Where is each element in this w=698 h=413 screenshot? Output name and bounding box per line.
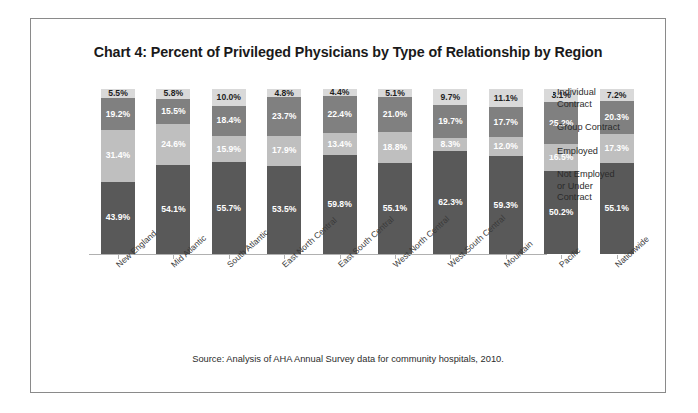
- bar-segment-label: 24.6%: [161, 140, 185, 149]
- bar-segment: 5.8%: [156, 89, 190, 99]
- bar-segment-label: 23.7%: [272, 112, 296, 121]
- bar-segment: 8.3%: [433, 138, 467, 152]
- x-axis-line: [89, 254, 547, 255]
- legend-item-label: Individual Contract: [557, 87, 621, 110]
- bar-segment: 12.0%: [489, 137, 523, 157]
- stacked-bar: 5.5%19.2%31.4%43.9%: [101, 89, 135, 254]
- bar-segment-label: 62.3%: [438, 198, 462, 207]
- bar-segment-label: 18.8%: [383, 143, 407, 152]
- bar-segment: 19.2%: [101, 98, 135, 130]
- legend-swatch-icon: [547, 125, 553, 131]
- bar-segment-label: 17.9%: [272, 146, 296, 155]
- stacked-bar: 10.0%18.4%15.9%55.7%: [212, 89, 246, 254]
- legend-swatch-icon: [547, 90, 553, 96]
- bar-segment-label: 59.8%: [327, 200, 351, 209]
- bar-segment-label: 53.5%: [272, 205, 296, 214]
- chart-frame: Chart 4: Percent of Privileged Physician…: [30, 18, 666, 393]
- legend-item-label: Not Employed or Under Contract: [557, 169, 621, 204]
- bar-segment: 17.7%: [489, 107, 523, 136]
- bar-segment: 54.1%: [156, 165, 190, 254]
- bar-segment: 53.5%: [267, 166, 301, 254]
- bar-segment-label: 19.2%: [106, 110, 130, 119]
- bar-segment: 15.5%: [156, 99, 190, 125]
- legend: Individual ContractGroup ContractEmploye…: [547, 87, 657, 216]
- legend-item-label: Employed: [557, 146, 598, 158]
- bar-segment: 19.7%: [433, 105, 467, 138]
- bar-segment: 9.7%: [433, 89, 467, 105]
- bar-segment: 4.4%: [323, 89, 357, 96]
- bar-segment-label: 55.7%: [217, 204, 241, 213]
- legend-swatch-icon: [547, 172, 553, 178]
- bar-segment: 21.0%: [378, 97, 412, 132]
- bar-segment: 31.4%: [101, 130, 135, 182]
- stacked-bar: 4.8%23.7%17.9%53.5%: [267, 89, 301, 254]
- bar-segment-label: 59.3%: [494, 201, 518, 210]
- bar-segment: 4.8%: [267, 89, 301, 97]
- bar-segment-label: 15.5%: [161, 107, 185, 116]
- bar-segment-label: 8.3%: [441, 140, 461, 149]
- legend-item: Group Contract: [547, 122, 657, 134]
- legend-item-label: Group Contract: [557, 122, 620, 134]
- bar-segment: 5.5%: [101, 89, 135, 98]
- bar-segment-label: 9.7%: [441, 93, 461, 102]
- bar-segment-label: 4.8%: [274, 89, 294, 97]
- plot-area: 5.5%19.2%31.4%43.9%5.8%15.5%24.6%54.1%10…: [91, 89, 607, 254]
- bar-segment: 18.4%: [212, 106, 246, 136]
- bar-segment: 43.9%: [101, 182, 135, 254]
- bar-segment: 55.1%: [378, 163, 412, 254]
- bar-segment-label: 15.9%: [217, 145, 241, 154]
- bar-segment: 5.1%: [378, 89, 412, 97]
- bar-segment: 55.7%: [212, 162, 246, 254]
- bar-segment-label: 54.1%: [161, 205, 185, 214]
- chart-page: Chart 4: Percent of Privileged Physician…: [0, 0, 698, 413]
- bar-segment-label: 19.7%: [438, 117, 462, 126]
- bar-segment-label: 43.9%: [106, 213, 130, 222]
- bar-segment: 62.3%: [433, 151, 467, 254]
- bar-segment: 59.3%: [489, 156, 523, 254]
- bar-segment: 24.6%: [156, 124, 190, 165]
- page-title: Chart 4: Percent of Privileged Physician…: [31, 44, 665, 60]
- legend-item: Not Employed or Under Contract: [547, 169, 657, 204]
- bar-segment-label: 31.4%: [106, 151, 130, 160]
- legend-item: Employed: [547, 146, 657, 158]
- bar-segment-label: 12.0%: [494, 142, 518, 151]
- stacked-bar: 5.8%15.5%24.6%54.1%: [156, 89, 190, 254]
- bar-segment-label: 5.1%: [385, 89, 405, 97]
- source-note: Source: Analysis of AHA Annual Survey da…: [31, 354, 665, 364]
- bar-segment: 59.8%: [323, 155, 357, 254]
- legend-swatch-icon: [547, 149, 553, 155]
- bar-segment: 23.7%: [267, 97, 301, 136]
- bar-segment: 18.8%: [378, 132, 412, 163]
- bar-segment-label: 18.4%: [217, 116, 241, 125]
- bar-segment-label: 11.1%: [494, 94, 518, 103]
- bar-segment: 13.4%: [323, 133, 357, 155]
- bar-segment: 15.9%: [212, 136, 246, 162]
- legend-item: Individual Contract: [547, 87, 657, 110]
- bar-segment: 11.1%: [489, 89, 523, 107]
- bar-segment: 10.0%: [212, 89, 246, 106]
- bar-segment-label: 13.4%: [327, 140, 351, 149]
- bar-segment-label: 21.0%: [383, 110, 407, 119]
- bar-segment-label: 5.8%: [164, 89, 184, 98]
- bar-segment: 17.9%: [267, 136, 301, 166]
- bar-segment-label: 10.0%: [217, 93, 241, 102]
- bar-segment-label: 17.7%: [494, 118, 518, 127]
- bar-segment: 22.4%: [323, 96, 357, 133]
- bar-segment-label: 55.1%: [383, 204, 407, 213]
- bar-segment-label: 5.5%: [108, 89, 128, 98]
- bar-segment-label: 4.4%: [330, 89, 350, 96]
- bar-segment-label: 22.4%: [327, 110, 351, 119]
